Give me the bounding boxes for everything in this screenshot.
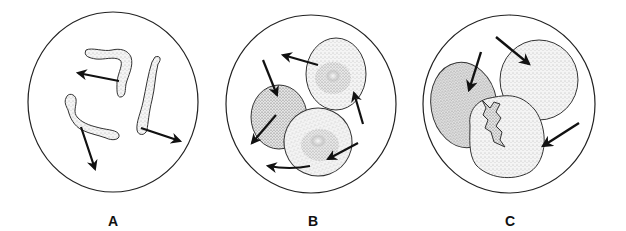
ruptured-cell — [470, 96, 544, 178]
worm-cell-left — [65, 94, 119, 139]
panel-c — [423, 15, 595, 193]
arrow-icon — [543, 123, 579, 146]
worm-cell-top — [85, 49, 132, 97]
arrow-icon — [268, 166, 310, 168]
panel-label-b: B — [298, 213, 328, 229]
panel-b — [226, 15, 396, 193]
arrow-icon — [78, 73, 119, 81]
arrow-icon — [141, 128, 180, 141]
worm-cell-right — [137, 56, 160, 134]
panel-label-a: A — [98, 213, 128, 229]
diagram-figure — [0, 0, 626, 231]
panel-a — [28, 12, 198, 192]
oval-cell — [306, 38, 366, 110]
field-circle-a — [28, 12, 198, 192]
panel-label-c: C — [495, 213, 525, 229]
